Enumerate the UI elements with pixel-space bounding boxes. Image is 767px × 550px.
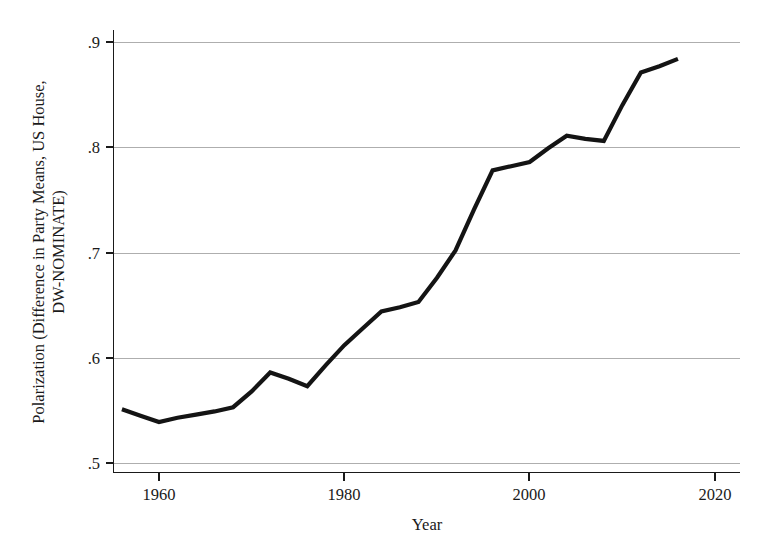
polarization-line-chart: .9 .8 .7 .6 .5 1960 1980 2000 2020 Year … (0, 0, 767, 550)
y-tick-labels: .9 .8 .7 .6 .5 (88, 33, 100, 473)
x-axis-title: Year (412, 515, 443, 534)
y-tick-label-0.7: .7 (88, 244, 100, 263)
y-axis-title-line-1: Polarization (Difference in Party Means,… (29, 80, 48, 423)
x-tick-label-1980: 1980 (328, 485, 361, 504)
y-tick-marks (106, 42, 113, 463)
y-tick-label-0.6: .6 (88, 349, 100, 368)
y-axis-title: Polarization (Difference in Party Means,… (29, 80, 68, 423)
y-tick-label-0.5: .5 (88, 454, 100, 473)
chart-figure: .9 .8 .7 .6 .5 1960 1980 2000 2020 Year … (0, 0, 767, 550)
x-tick-label-2020: 2020 (699, 485, 732, 504)
axes-lines (113, 30, 740, 473)
y-tick-label-0.8: .8 (88, 138, 100, 157)
x-tick-label-2000: 2000 (513, 485, 546, 504)
y-axis-title-line-2: DW-NOMINATE) (49, 190, 68, 314)
x-tick-labels: 1960 1980 2000 2020 (143, 485, 732, 504)
gridlines (113, 42, 740, 463)
y-tick-label-0.9: .9 (88, 33, 100, 52)
data-line-polarization (122, 59, 678, 422)
x-tick-label-1960: 1960 (143, 485, 176, 504)
x-tick-marks (159, 473, 715, 481)
